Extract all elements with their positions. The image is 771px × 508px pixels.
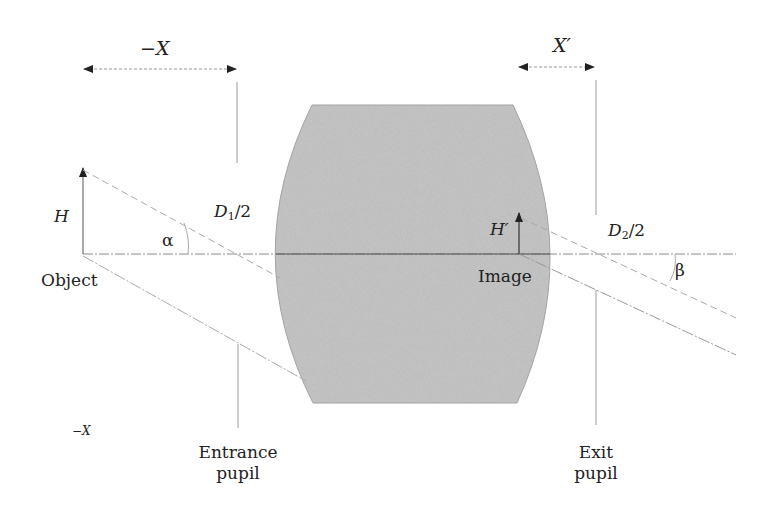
optical-diagram — [0, 0, 771, 508]
object-height-label: H — [54, 208, 69, 225]
exit-pupil-label: Exit pupil — [556, 442, 636, 484]
d1-half-label: D1/2 — [214, 203, 251, 222]
d2-half-label: D2/2 — [608, 222, 645, 241]
exit-pupil-label-line2: pupil — [556, 463, 636, 484]
d1-subscript: 1 — [228, 210, 235, 223]
minus-x-label-top: −X — [140, 39, 169, 58]
entrance-pupil-label: Entrance pupil — [188, 442, 288, 484]
alpha-label: α — [162, 232, 173, 249]
image-height-label: H′ — [490, 221, 509, 238]
d2-symbol: D — [608, 220, 622, 240]
x-prime-label: X′ — [553, 36, 571, 55]
object-marginal-ray — [83, 256, 306, 381]
d2-tail: /2 — [629, 220, 646, 240]
object-label: Object — [41, 272, 98, 289]
entrance-pupil-label-line1: Entrance — [188, 442, 288, 463]
exit-pupil-label-line1: Exit — [556, 442, 636, 463]
entrance-pupil-label-line2: pupil — [188, 463, 288, 484]
image-marginal-ray — [519, 254, 736, 355]
minus-x-label-bottom: −X — [72, 425, 91, 437]
beta-label: β — [675, 262, 685, 279]
image-label: Image — [478, 268, 532, 285]
d2-subscript: 2 — [622, 229, 629, 242]
alpha-angle-arc — [184, 223, 189, 254]
d1-symbol: D — [214, 201, 228, 221]
object-chief-ray — [83, 170, 280, 278]
d1-tail: /2 — [235, 201, 252, 221]
